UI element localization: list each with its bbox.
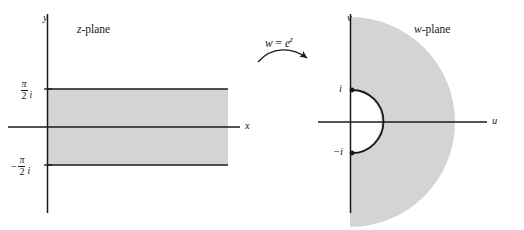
lower-bound-numerator: π bbox=[18, 155, 25, 166]
lower-bound-imaginary-unit: i bbox=[27, 166, 30, 177]
lower-bound-fraction: π 2 bbox=[18, 155, 25, 177]
w-plane-point-minus-i-label: −i bbox=[333, 147, 343, 158]
w-plane-point-minus-i bbox=[350, 151, 355, 156]
w-plane-point-i-label: i bbox=[339, 84, 342, 95]
z-plane-y-axis-label: y bbox=[43, 13, 48, 24]
upper-bound-fraction: π 2 bbox=[21, 79, 28, 101]
lower-bound-sign: − bbox=[11, 161, 17, 172]
z-plane-title-suffix: -plane bbox=[81, 23, 110, 35]
upper-bound-numerator: π bbox=[21, 79, 28, 90]
w-plane-title-var: w bbox=[414, 23, 422, 35]
complex-mapping-figure: z-plane y x π 2 i − π 2 i w = ez w-plane… bbox=[0, 0, 524, 230]
z-plane-x-axis-label: x bbox=[245, 121, 250, 132]
upper-bound-denominator: 2 bbox=[21, 91, 28, 102]
mapping-arrow bbox=[258, 50, 307, 62]
w-plane-title-suffix: -plane bbox=[422, 23, 451, 35]
w-plane-point-i bbox=[350, 88, 355, 93]
mapping-label: w = ez bbox=[265, 36, 293, 49]
mapping-label-exponent: z bbox=[290, 35, 293, 44]
z-plane-title: z-plane bbox=[77, 24, 110, 36]
w-plane-v-axis-label: v bbox=[347, 13, 352, 24]
mapping-label-equals: = bbox=[276, 37, 283, 49]
z-plane-lower-bound-label: − π 2 i bbox=[11, 155, 30, 177]
lower-bound-denominator: 2 bbox=[18, 167, 25, 178]
w-plane-u-axis-label: u bbox=[492, 116, 497, 127]
w-plane-title: w-plane bbox=[414, 24, 450, 36]
mapping-label-w: w bbox=[265, 37, 273, 49]
z-plane-upper-bound-label: π 2 i bbox=[19, 79, 32, 101]
upper-bound-imaginary-unit: i bbox=[30, 90, 33, 101]
